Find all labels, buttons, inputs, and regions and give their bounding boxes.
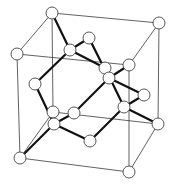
atom-interior-4 xyxy=(48,118,60,130)
atom-corner-top-back-left xyxy=(46,7,58,19)
diamond-cubic-diagram: Diamond cubic crystal structure (unit ce… xyxy=(0,0,174,187)
atom-face-front xyxy=(68,107,80,119)
atom-interior-3 xyxy=(118,101,130,113)
atom-interior-1 xyxy=(64,44,76,56)
atom-corner-bottom-back-right xyxy=(152,118,164,130)
atom-face-bottom xyxy=(84,135,96,147)
atom-corner-bottom-front-right xyxy=(123,166,135,178)
atom-interior-2 xyxy=(103,72,115,84)
atom-corner-top-front-left xyxy=(11,48,23,60)
atom-corner-top-back-right xyxy=(153,17,165,29)
atom-face-left xyxy=(29,78,41,90)
atom-corner-top-front-right xyxy=(123,59,135,71)
atom-face-right xyxy=(138,89,150,101)
atom-corner-bottom-front-left xyxy=(14,152,26,164)
atom-corner-bottom-back-left xyxy=(47,106,59,118)
atom-face-top xyxy=(83,32,95,44)
